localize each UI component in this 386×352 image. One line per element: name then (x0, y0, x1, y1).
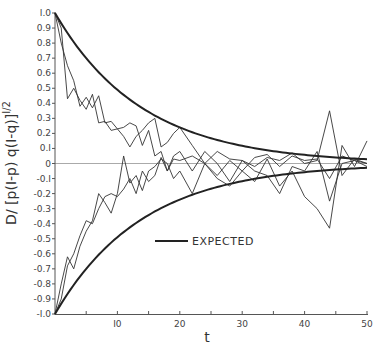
y-tick-label: -0.2 (33, 189, 51, 199)
y-tick-label: -0.I (37, 174, 52, 184)
y-tick-label: 0.8 (37, 38, 52, 48)
y-tick-label: 0.9 (37, 23, 52, 33)
y-tick-label: I.0 (40, 8, 52, 18)
expected-upper-curve (55, 13, 367, 159)
x-ticks: I020304050 (86, 311, 373, 329)
series-line (55, 13, 367, 179)
y-tick-label: -0.3 (33, 204, 51, 214)
x-axis-title: t (204, 329, 210, 345)
legend-label: EXPECTED (192, 235, 254, 248)
ld-decay-chart: I.00.90.80.70.60.50.40.30.20.I0-0.I-0.2-… (0, 0, 386, 352)
series-line (55, 151, 367, 314)
series-line (55, 141, 367, 314)
y-tick-label: -0.6 (33, 249, 51, 259)
y-tick-label: -0.4 (33, 219, 51, 229)
series-line (55, 13, 367, 176)
y-tick-label: -0.7 (33, 264, 51, 274)
y-tick-label: 0.3 (37, 113, 51, 123)
y-axis-title: D/ [p(I-p) q(I-q)]I/2 (1, 101, 19, 225)
y-tick-label: 0.5 (37, 83, 51, 93)
x-tick-label: 50 (361, 319, 373, 329)
y-tick-label: 0 (45, 159, 51, 169)
y-tick-label: -0.9 (33, 294, 51, 304)
x-tick-label: 20 (174, 319, 186, 329)
y-tick-label: -0.8 (33, 279, 51, 289)
y-tick-label: 0.I (40, 143, 51, 153)
y-tick-label: -0.5 (33, 234, 51, 244)
y-tick-label: 0.4 (37, 98, 52, 108)
y-tick-label: -I.0 (37, 309, 52, 319)
y-tick-label: 0.7 (37, 53, 51, 63)
x-tick-label: I0 (113, 319, 122, 329)
y-ticks: I.00.90.80.70.60.50.40.30.20.I0-0.I-0.2-… (33, 8, 55, 319)
y-tick-label: 0.2 (37, 128, 51, 138)
y-tick-label: 0.6 (37, 68, 52, 78)
x-tick-label: 40 (299, 319, 311, 329)
x-tick-label: 30 (236, 319, 248, 329)
